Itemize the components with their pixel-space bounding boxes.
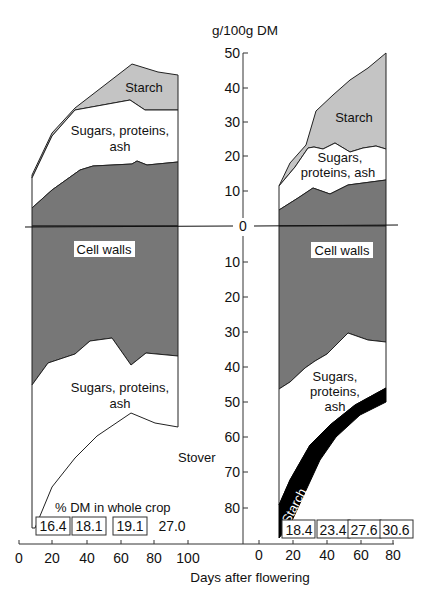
y-tick-label: 80 — [224, 500, 240, 516]
x-tick-label: 100 — [176, 550, 200, 566]
dm-value: 27.6 — [350, 522, 377, 538]
x-tick-label: 40 — [79, 550, 95, 566]
left-lower-sugars-label-2: ash — [110, 396, 131, 411]
forage-composition-chart: 50 40 30 20 10 0 10 20 30 40 50 60 70 80… — [0, 0, 427, 608]
y-tick-label: 40 — [224, 80, 240, 96]
right-lower-sugars-label-2: proteins, — [310, 384, 360, 399]
right-lower-sugars-label-3: ash — [325, 399, 346, 414]
right-lower-sugars-label-1: Sugars, — [313, 369, 358, 384]
y-tick-label: 40 — [224, 359, 240, 375]
y-tick-label-zero: 0 — [239, 218, 247, 234]
right-sugars-label-1: Sugars, — [318, 150, 363, 165]
y-tick-labels: 50 40 30 20 10 0 10 20 30 40 50 60 70 80 — [224, 45, 247, 516]
x-tick-label: 60 — [353, 547, 369, 563]
y-tick-label: 10 — [224, 254, 240, 270]
left-starch-label: Starch — [125, 80, 163, 95]
left-cellwalls-label: Cell walls — [77, 242, 132, 257]
y-tick-label: 30 — [224, 114, 240, 130]
dm-value: 23.4 — [319, 522, 346, 538]
left-lower-sugars-label-1: Sugars, proteins, — [71, 380, 169, 395]
dm-value: 30.6 — [382, 522, 409, 538]
x-tick-label: 0 — [15, 550, 23, 566]
x-tick-label: 20 — [44, 550, 60, 566]
dm-value: 27.0 — [158, 518, 185, 534]
right-starch-label: Starch — [335, 110, 373, 125]
x-axis-title: Days after flowering — [190, 570, 309, 585]
dm-caption-label: % DM in whole crop — [55, 500, 171, 515]
dm-value: 16.4 — [39, 518, 66, 534]
y-tick-label: 60 — [224, 429, 240, 445]
left-sugars-label-2: ash — [110, 139, 131, 154]
left-sugars-label-1: Sugars, proteins, — [71, 123, 169, 138]
right-x-axis: 0 20 40 60 80 — [243, 540, 401, 563]
y-tick-label: 70 — [224, 464, 240, 480]
left-x-axis: 0 20 40 60 80 100 — [15, 540, 243, 566]
y-tick-label: 20 — [224, 148, 240, 164]
x-tick-label: 60 — [113, 550, 129, 566]
x-tick-label: 0 — [255, 547, 263, 563]
x-tick-label: 80 — [385, 547, 401, 563]
right-cellwalls-label: Cell walls — [315, 243, 370, 258]
stover-label: Stover — [178, 450, 216, 465]
y-axis — [243, 53, 248, 544]
x-tick-label: 80 — [146, 550, 162, 566]
left-lower-panel — [32, 226, 178, 528]
right-dm-boxes: 18.4 23.4 27.6 30.6 — [282, 520, 413, 538]
x-tick-label: 20 — [285, 547, 301, 563]
y-tick-label: 20 — [224, 289, 240, 305]
dm-value: 19.1 — [116, 518, 143, 534]
y-tick-label: 50 — [224, 394, 240, 410]
y-tick-label: 10 — [224, 183, 240, 199]
y-tick-label: 50 — [224, 45, 240, 61]
right-sugars-label-2: proteins, ash — [301, 165, 375, 180]
right-upper-panel — [279, 53, 386, 226]
y-axis-unit-label: g/100g DM — [212, 23, 278, 38]
dm-value: 18.4 — [285, 522, 312, 538]
y-tick-label: 30 — [224, 324, 240, 340]
x-tick-label: 40 — [319, 547, 335, 563]
dm-value: 18.1 — [75, 518, 102, 534]
left-dm-boxes: 16.4 18.1 19.1 27.0 — [36, 517, 186, 535]
